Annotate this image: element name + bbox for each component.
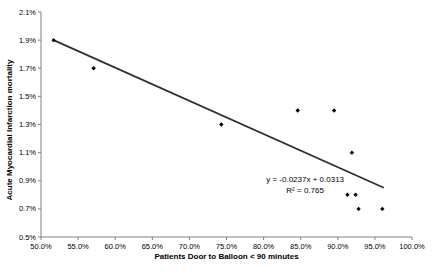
- data-point-marker: [91, 66, 95, 70]
- y-tick-label: 1.3%: [4, 120, 36, 129]
- plot-canvas: [41, 12, 412, 237]
- y-tick-label: 1.7%: [4, 64, 36, 73]
- x-tick-label: 50.0%: [24, 242, 58, 251]
- y-tick-label: 1.5%: [4, 92, 36, 101]
- plot-area: y = -0.0237x + 0.0313 R² = 0.765: [41, 12, 412, 237]
- x-tick-label: 85.0%: [284, 242, 318, 251]
- trend-line: [54, 40, 384, 188]
- x-axis-title: Patients Door to Balloon < 90 minutes: [41, 252, 412, 261]
- x-tick-label: 70.0%: [172, 242, 206, 251]
- x-tick-label: 75.0%: [210, 242, 244, 251]
- data-point-marker: [332, 108, 336, 112]
- trendline-equation: y = -0.0237x + 0.0313: [266, 174, 344, 185]
- x-tick-label: 55.0%: [61, 242, 95, 251]
- y-tick-label: 0.9%: [4, 176, 36, 185]
- y-tick-label: 0.7%: [4, 204, 36, 213]
- data-point-marker: [356, 207, 360, 211]
- y-tick-label: 0.5%: [4, 233, 36, 242]
- data-point-marker: [380, 207, 384, 211]
- trendline-annotation: y = -0.0237x + 0.0313 R² = 0.765: [266, 174, 344, 196]
- y-tick-label: 1.9%: [4, 36, 36, 45]
- y-tick-label: 1.1%: [4, 148, 36, 157]
- y-tick-label: 2.1%: [4, 8, 36, 17]
- data-point-marker: [350, 150, 354, 154]
- x-tick-label: 90.0%: [321, 242, 355, 251]
- x-tick-label: 80.0%: [247, 242, 281, 251]
- scatter-chart: Acute Myocardial Infarction mortality y …: [0, 0, 434, 276]
- x-tick-label: 65.0%: [135, 242, 169, 251]
- data-point-marker: [219, 122, 223, 126]
- x-tick-label: 60.0%: [98, 242, 132, 251]
- x-tick-label: 95.0%: [358, 242, 392, 251]
- data-point-marker: [345, 193, 349, 197]
- x-tick-label: 100.0%: [395, 242, 429, 251]
- trendline-r-squared: R² = 0.765: [266, 185, 344, 196]
- data-point-marker: [296, 108, 300, 112]
- data-point-marker: [353, 193, 357, 197]
